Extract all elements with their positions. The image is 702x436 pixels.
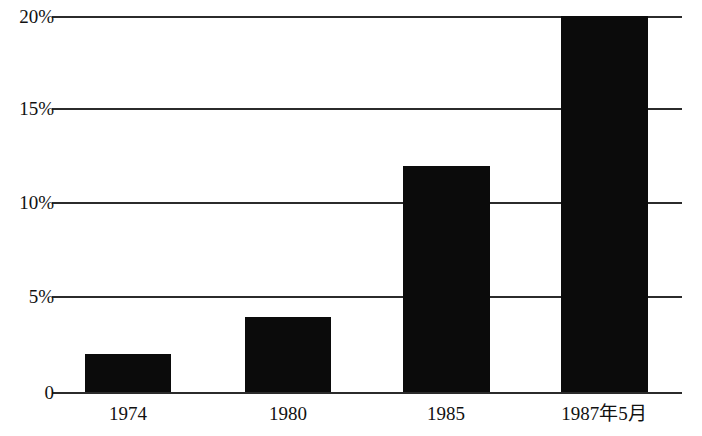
xtick-label-1987-05: 1987年5月 <box>539 403 669 425</box>
xtick-label-1980: 1980 <box>238 403 338 425</box>
ytick-label-0: 0 <box>45 383 55 402</box>
ytick-label-10: 10% <box>19 193 54 212</box>
axis-baseline-0 <box>52 392 682 394</box>
bar-1980 <box>245 317 331 392</box>
ytick-label-5: 5% <box>29 287 54 306</box>
ytick-label-20: 20% <box>19 7 54 26</box>
bar-1974 <box>85 354 171 392</box>
bar-chart: 20% 15% 10% 5% 0 1974 1980 1985 1987年5月 <box>0 0 702 436</box>
bar-1985 <box>403 166 490 392</box>
bar-1987-05 <box>561 16 648 392</box>
ytick-label-15: 15% <box>19 99 54 118</box>
xtick-label-1985: 1985 <box>396 403 496 425</box>
plot-area: 20% 15% 10% 5% 0 1974 1980 1985 1987年5月 <box>0 0 702 436</box>
xtick-label-1974: 1974 <box>78 403 178 425</box>
